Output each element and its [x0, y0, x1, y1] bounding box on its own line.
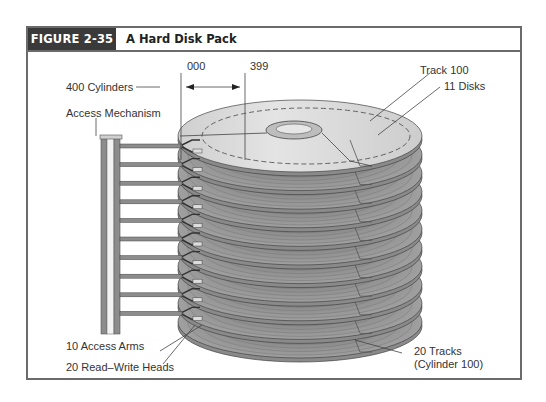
read-write-head: [193, 261, 202, 265]
label-400-cylinders: 400 Cylinders: [66, 81, 133, 94]
label-10-access-arms: 10 Access Arms: [66, 340, 144, 353]
platter-stack: [178, 100, 422, 362]
read-write-head: [193, 186, 202, 190]
label-cylinder-000: 000: [187, 60, 205, 73]
read-write-head: [193, 298, 202, 302]
read-write-head: [193, 168, 202, 172]
read-write-head: [193, 242, 202, 246]
label-11-disks: 11 Disks: [444, 80, 485, 93]
arrow-right-icon: [232, 84, 240, 90]
read-write-head: [193, 149, 202, 153]
label-access-mechanism: Access Mechanism: [66, 107, 161, 120]
label-cylinder-399: 399: [250, 60, 268, 73]
label-20-read-write-heads: 20 Read–Write Heads: [66, 361, 174, 374]
label-track-100: Track 100: [420, 64, 469, 77]
label-cylinder-100: (Cylinder 100): [414, 358, 483, 371]
read-write-head: [193, 279, 202, 283]
read-write-head: [193, 316, 202, 320]
read-write-head: [193, 223, 202, 227]
label-20-tracks: 20 Tracks: [414, 345, 462, 358]
arrow-left-icon: [186, 84, 194, 90]
read-write-head: [193, 205, 202, 209]
